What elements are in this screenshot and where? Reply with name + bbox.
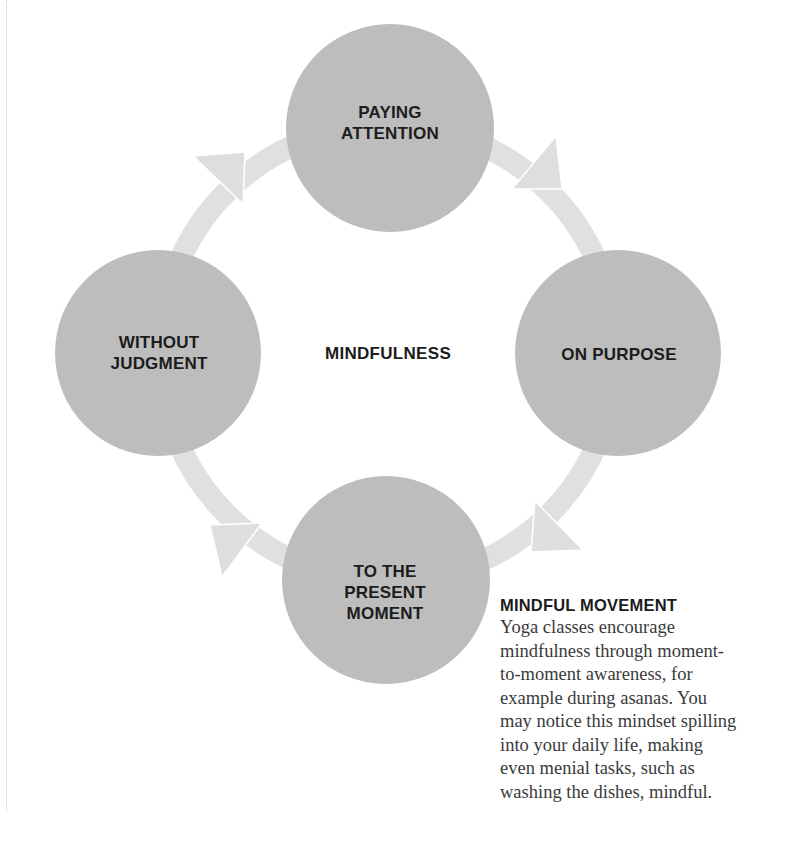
sidebar-body: Yoga classes encourage mindfulness throu… — [500, 616, 800, 804]
node-label-without-judgment: WITHOUT JUDGMENT — [111, 332, 208, 374]
center-label-mindfulness: MINDFULNESS — [325, 344, 451, 364]
node-label-present-moment: TO THE PRESENT MOMENT — [344, 561, 426, 624]
mindful-movement-sidebar: MINDFUL MOVEMENT Yoga classes encourage … — [500, 596, 800, 804]
sidebar-title: MINDFUL MOVEMENT — [500, 596, 800, 615]
node-label-on-purpose: ON PURPOSE — [561, 344, 676, 365]
node-label-paying-attention: PAYING ATTENTION — [341, 102, 439, 144]
